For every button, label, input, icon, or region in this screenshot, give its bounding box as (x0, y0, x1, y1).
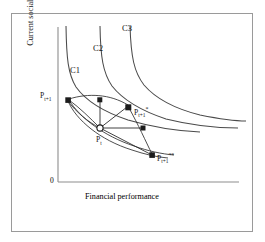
arrow-pt-to-pt1dstar (100, 128, 152, 155)
curve-c2 (100, 26, 238, 128)
curve-label-c1: C1 (70, 66, 80, 75)
point-label-p-t-plus-1-star: Pt+1* (134, 107, 148, 118)
curve-label-c3: C3 (122, 24, 132, 33)
marker-pt-plus-1-star (125, 104, 131, 110)
point-label-p-t-plus-1: Pt+1 (40, 92, 51, 102)
y-axis-label: Current social performance (24, 0, 38, 66)
point-label-sub: t+1 (138, 112, 145, 118)
marker-pt-plus-1-dstar (149, 152, 155, 158)
x-axis-label: Financial performance (85, 192, 159, 201)
figure-canvas: C1 C2 C3 Pt+1 Pt Pt+1* Pt+1** 0 Financia… (0, 0, 265, 242)
point-label-sub: t+1 (161, 158, 168, 164)
curve-label-c2: C2 (93, 44, 103, 53)
point-label-p-t: Pt (96, 136, 102, 146)
marker-pt-plus-1 (65, 97, 71, 103)
point-label-p-t-plus-1-dstar: Pt+1** (157, 153, 174, 164)
point-label-sub: t (100, 140, 102, 146)
point-label-sup: * (145, 106, 148, 112)
axis-origin-tick: 0 (50, 176, 54, 185)
point-label-sub: t+1 (44, 96, 51, 102)
marker-pt-current (97, 125, 103, 131)
lower-bow-outer (68, 101, 168, 158)
point-label-sup: ** (168, 152, 174, 158)
diagram-plot (0, 0, 265, 242)
marker-mid-vertical (97, 97, 102, 102)
marker-mid-horizontal (141, 126, 146, 131)
